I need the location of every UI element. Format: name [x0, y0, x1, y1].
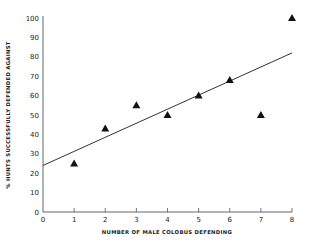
y-tick-label: 20 [30, 170, 39, 178]
y-tick-label: 10 [30, 189, 39, 197]
regression-line [43, 53, 292, 166]
x-tick-label: 0 [41, 216, 45, 224]
x-tick-label: 3 [134, 216, 138, 224]
triangle-marker [101, 125, 109, 132]
y-tick-label: 40 [30, 131, 39, 139]
scatter-chart: 0102030405060708090100 012345678 NUMBER … [0, 0, 311, 250]
y-tick-label: 30 [30, 150, 39, 158]
y-tick-label: 0 [35, 209, 39, 217]
triangle-marker [70, 160, 78, 167]
y-tick-label: 50 [30, 112, 39, 120]
x-tick-label: 4 [165, 216, 170, 224]
trend-line [43, 53, 292, 166]
y-tick-label: 70 [30, 73, 39, 81]
triangle-marker [132, 101, 140, 108]
x-tick-label: 5 [196, 216, 200, 224]
y-tick-label: 90 [30, 34, 39, 42]
y-tick-label: 60 [30, 92, 39, 100]
y-tick-label: 80 [30, 53, 39, 61]
y-axis: 0102030405060708090100 [26, 15, 43, 217]
triangle-marker [195, 92, 203, 99]
x-axis-title: NUMBER OF MALE COLOBUS DEFENDING [102, 229, 232, 235]
y-axis-title: % HUNTS SUCCESSFULLY DEFENDED AGAINST [5, 41, 11, 189]
x-tick-label: 8 [290, 216, 294, 224]
y-tick-label: 100 [26, 15, 39, 23]
x-tick-label: 2 [103, 216, 107, 224]
x-tick-label: 1 [72, 216, 76, 224]
x-axis: 012345678 [41, 208, 294, 224]
triangle-marker [257, 111, 265, 118]
triangle-marker [288, 14, 296, 21]
x-tick-label: 6 [228, 216, 233, 224]
x-tick-label: 7 [259, 216, 263, 224]
data-points [70, 14, 296, 167]
triangle-marker [164, 111, 172, 118]
